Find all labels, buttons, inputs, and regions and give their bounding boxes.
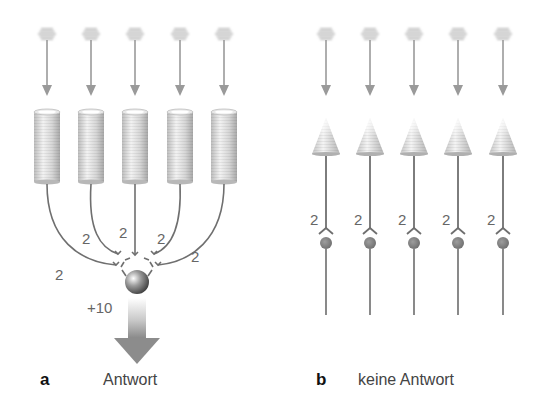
synapse-b-4 [451,228,465,234]
arrow-down-icon [130,85,140,96]
neuron-soma-b-2 [364,237,376,249]
b-stimulus-3 [405,28,423,96]
stimulus-source-icon [317,28,335,40]
receptor-cone-5 [489,118,517,156]
panel-a-letter: a [40,370,50,389]
axon-a-2 [91,184,118,254]
neuron-soma [125,270,149,294]
b-stimulus-4 [449,28,467,96]
a-stimulus-5 [215,28,233,96]
weight-label-b-1: 2 [310,211,318,228]
synapse-b-5 [496,228,510,234]
neuron-soma-b-1 [320,237,332,249]
neuron-soma-b-5 [497,237,509,249]
stimulus-source-icon [405,28,423,40]
panel-b-caption: keine Antwort [358,371,455,388]
b-stimulus-5 [494,28,512,96]
panel-b [312,28,517,315]
panel-b-letter: b [316,370,326,389]
arrow-down-icon [86,85,96,96]
receptor-cylinder-2 [78,109,104,185]
receptor-cylinder-1 [34,109,60,185]
receptor-cylinder-4 [167,109,193,185]
neuron-soma-b-4 [452,237,464,249]
panel-a [34,28,237,364]
panel-a-caption: Antwort [103,371,158,388]
weight-label-b-3: 2 [398,211,406,228]
stimulus-source-icon [361,28,379,40]
synapse-b-1 [319,228,333,234]
weight-label-a-4: 2 [157,230,165,247]
receptor-cone-1 [312,118,340,156]
sum-label: +10 [87,299,112,316]
weight-label-a-3: 2 [119,224,127,241]
axon-a-1 [47,184,116,265]
a-stimulus-3 [126,28,144,96]
weight-label-b-4: 2 [442,211,450,228]
weight-label-a-5: 2 [191,248,199,265]
synapse-b-2 [363,228,377,234]
arrow-down-icon [365,85,375,96]
arrow-down-icon [498,85,508,96]
arrow-down-icon [409,85,419,96]
synapse-b-3 [407,228,421,234]
receptor-cone-2 [356,118,384,156]
response-arrow-icon [114,298,160,364]
stimulus-source-icon [215,28,233,40]
a-stimulus-2 [82,28,100,96]
a-stimulus-1 [38,28,56,96]
weight-label-b-2: 2 [354,211,362,228]
stimulus-source-icon [126,28,144,40]
neuron-soma-b-3 [408,237,420,249]
receptor-cone-3 [400,118,428,156]
stimulus-source-icon [449,28,467,40]
b-stimulus-2 [361,28,379,96]
arrow-down-icon [321,85,331,96]
receptor-cylinder-3 [122,109,148,185]
arrow-down-icon [453,85,463,96]
diagram-canvas: a Antwort +10 2 2 2 2 2 b keine Antwort … [0,0,540,409]
arrow-down-icon [175,85,185,96]
b-stimulus-1 [317,28,335,96]
weight-label-b-5: 2 [487,211,495,228]
weight-label-a-1: 2 [55,266,63,283]
arrow-down-icon [219,85,229,96]
stimulus-source-icon [82,28,100,40]
a-stimulus-4 [171,28,189,96]
receptor-cylinder-5 [211,109,237,185]
receptor-cone-4 [444,118,472,156]
weight-label-a-2: 2 [82,230,90,247]
stimulus-source-icon [38,28,56,40]
arrow-down-icon [42,85,52,96]
stimulus-source-icon [494,28,512,40]
stimulus-source-icon [171,28,189,40]
